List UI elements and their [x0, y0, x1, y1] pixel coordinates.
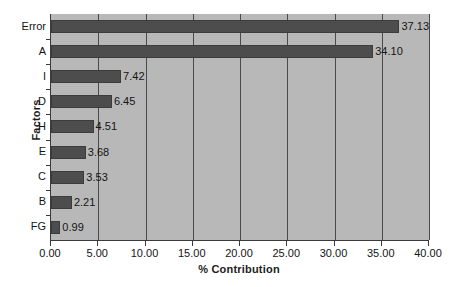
bar-value-label: 34.10: [375, 46, 403, 57]
y-axis-category-label: A: [2, 46, 46, 57]
bar[interactable]: [51, 196, 72, 209]
x-axis-tick-labels: 0.005.0010.0015.0020.0025.0030.0035.0040…: [50, 246, 430, 262]
y-axis-category-label: Error: [2, 21, 46, 32]
y-axis-category-label: I: [2, 71, 46, 82]
bar[interactable]: [51, 20, 399, 33]
x-axis-title: % Contribution: [50, 263, 428, 275]
bar-value-label: 4.51: [96, 121, 117, 132]
bar-row[interactable]: 7.42: [51, 64, 429, 89]
y-axis-category-label: C: [2, 171, 46, 182]
bar-row[interactable]: 37.13: [51, 14, 429, 39]
gridline: [429, 14, 430, 240]
bar[interactable]: [51, 171, 84, 184]
bar-row[interactable]: 4.51: [51, 114, 429, 139]
bar-row[interactable]: 6.45: [51, 89, 429, 114]
bar-value-label: 0.99: [62, 222, 83, 233]
y-axis-category-label: E: [2, 146, 46, 157]
bar[interactable]: [51, 45, 373, 58]
bar-row[interactable]: 0.99: [51, 215, 429, 240]
bar[interactable]: [51, 70, 121, 83]
bar-row[interactable]: 3.53: [51, 165, 429, 190]
y-axis-category-label: B: [2, 196, 46, 207]
bar-value-label: 2.21: [74, 197, 95, 208]
bar[interactable]: [51, 120, 94, 133]
bar-value-label: 6.45: [114, 96, 135, 107]
y-axis-category-label: FG: [2, 221, 46, 232]
plot-area: 37.1334.107.426.454.513.683.532.210.99: [50, 14, 429, 241]
bar-row[interactable]: 2.21: [51, 190, 429, 215]
y-axis-category-label: D: [2, 96, 46, 107]
bar-value-label: 37.13: [401, 21, 429, 32]
y-axis-category-labels: ErrorAIDHECBFG: [0, 14, 46, 240]
x-axis-tick-label: 40.00: [398, 246, 458, 260]
bar-value-label: 3.53: [86, 172, 107, 183]
bar[interactable]: [51, 95, 112, 108]
bar-row[interactable]: 3.68: [51, 140, 429, 165]
bar[interactable]: [51, 221, 60, 234]
bar-value-label: 3.68: [88, 147, 109, 158]
y-axis-category-label: H: [2, 121, 46, 132]
bar-chart: Factors ErrorAIDHECBFG 37.1334.107.426.4…: [0, 0, 458, 287]
bar[interactable]: [51, 146, 86, 159]
bar-row[interactable]: 34.10: [51, 39, 429, 64]
bar-value-label: 7.42: [123, 71, 144, 82]
